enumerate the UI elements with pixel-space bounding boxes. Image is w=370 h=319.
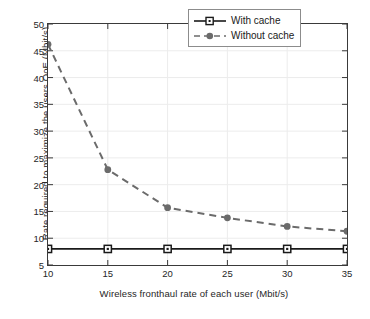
series-2 (48, 41, 347, 235)
y-tick-label: 15 (33, 206, 44, 217)
x-axis-label: Wireless fronthaul rate of each user (Mb… (40, 288, 348, 299)
y-tick-label: 40 (33, 72, 44, 83)
legend-label-with-cache: With cache (231, 15, 280, 26)
y-tick-label: 25 (33, 152, 44, 163)
y-tick-label: 30 (33, 126, 44, 137)
axis-tick-marks (48, 24, 347, 265)
chart-figure: Rate required to maximize the users QoE … (0, 0, 370, 319)
y-tick-label: 20 (33, 179, 44, 190)
legend-item-without-cache: Without cache (193, 28, 294, 43)
x-tick-label: 20 (162, 268, 173, 279)
x-tick-label: 10 (43, 268, 54, 279)
x-tick-label: 15 (103, 268, 114, 279)
legend-label-without-cache: Without cache (231, 30, 294, 41)
chart-canvas (48, 24, 347, 265)
legend-swatch-dashed-circle (193, 29, 227, 43)
legend-item-with-cache: With cache (193, 13, 294, 28)
y-tick-label: 45 (33, 45, 44, 56)
x-tick-label: 25 (222, 268, 233, 279)
chart-legend: With cache Without cache (188, 9, 301, 47)
y-tick-label: 50 (33, 19, 44, 30)
x-tick-label: 30 (282, 268, 293, 279)
series-1 (48, 245, 347, 252)
y-tick-label: 35 (33, 99, 44, 110)
x-tick-label: 35 (342, 268, 353, 279)
gridlines (48, 24, 347, 265)
y-tick-label: 10 (33, 233, 44, 244)
plot-area: 5101520253035404550 101520253035 (47, 23, 348, 266)
legend-swatch-solid-square (193, 14, 227, 28)
data-series-layer (48, 41, 347, 253)
